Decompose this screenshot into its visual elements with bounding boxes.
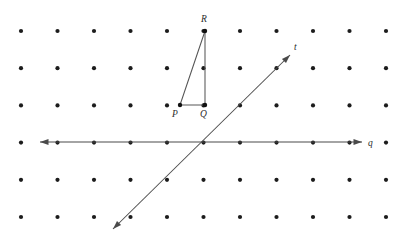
grid-dot: [19, 215, 23, 219]
grid-dot: [347, 103, 351, 107]
grid-dot: [55, 141, 59, 145]
grid-dot: [238, 141, 242, 145]
grid-dot: [274, 103, 278, 107]
point-label-q: Q: [200, 109, 207, 119]
grid-dot: [55, 215, 59, 219]
grid-dot: [19, 141, 23, 145]
grid-dot: [92, 103, 96, 107]
vertex-dot-p: [178, 103, 182, 107]
grid-dot: [92, 178, 96, 182]
grid-dot: [92, 66, 96, 70]
grid-dot: [92, 141, 96, 145]
grid-dot: [384, 178, 388, 182]
vertex-dot-r: [203, 29, 207, 33]
grid-dot: [165, 215, 169, 219]
geometry-figure: PQRqt: [0, 0, 407, 243]
grid-dot: [92, 29, 96, 33]
grid-dot: [347, 178, 351, 182]
grid-dot: [238, 178, 242, 182]
grid-dot: [201, 178, 205, 182]
grid-dot: [274, 29, 278, 33]
grid-dot: [55, 66, 59, 70]
grid-dot: [19, 66, 23, 70]
grid-dot: [55, 29, 59, 33]
grid-dot: [128, 178, 132, 182]
grid-dot: [384, 66, 388, 70]
grid-dot: [384, 103, 388, 107]
line-label-t: t: [294, 42, 297, 52]
grid-dot: [311, 141, 315, 145]
grid-dot: [238, 66, 242, 70]
grid-dot: [311, 66, 315, 70]
grid-dot: [347, 141, 351, 145]
point-label-r: R: [200, 14, 207, 24]
grid-dot: [384, 29, 388, 33]
grid-dot: [311, 29, 315, 33]
grid-dot: [128, 141, 132, 145]
grid-dot: [55, 178, 59, 182]
grid-dot: [347, 66, 351, 70]
grid-dot: [19, 29, 23, 33]
grid-dot: [165, 141, 169, 145]
point-label-p: P: [171, 109, 178, 119]
grid-dot: [128, 103, 132, 107]
grid-dot: [128, 29, 132, 33]
grid-dot: [238, 29, 242, 33]
figure-canvas: PQRqt: [0, 0, 407, 243]
vertex-dot-q: [203, 103, 207, 107]
grid-dot: [165, 103, 169, 107]
grid-dot: [92, 215, 96, 219]
grid-dot: [165, 66, 169, 70]
grid-dot: [165, 178, 169, 182]
line-label-q: q: [368, 138, 373, 148]
grid-dot: [384, 141, 388, 145]
grid-dot: [128, 215, 132, 219]
grid-dot: [165, 29, 169, 33]
grid-dot: [274, 141, 278, 145]
grid-dot: [384, 215, 388, 219]
grid-dot: [55, 103, 59, 107]
grid-dot: [238, 215, 242, 219]
grid-dot: [19, 103, 23, 107]
grid-dot: [311, 178, 315, 182]
grid-dot: [274, 178, 278, 182]
grid-dot: [347, 29, 351, 33]
grid-dot: [19, 178, 23, 182]
grid-dot: [311, 215, 315, 219]
grid-dot: [347, 215, 351, 219]
grid-dot: [274, 215, 278, 219]
grid-dot: [201, 215, 205, 219]
grid-dot: [128, 66, 132, 70]
grid-dot: [311, 103, 315, 107]
